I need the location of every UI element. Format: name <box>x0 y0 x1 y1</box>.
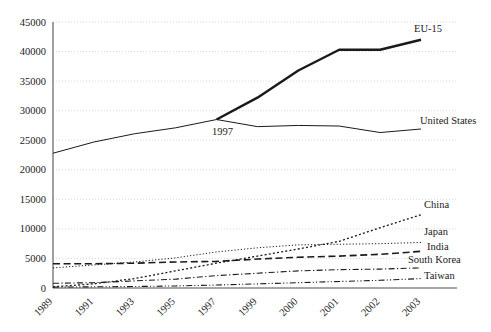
y-tick-label: 40000 <box>20 46 46 57</box>
series-label-south-korea: South Korea <box>408 254 461 265</box>
y-tick-label: 0 <box>41 283 46 294</box>
y-tick-labels-group: 0500010000150002000025000300003500040000… <box>20 17 46 294</box>
annotations-group: 1997 <box>212 126 233 137</box>
x-tick-label: 1999 <box>236 296 259 319</box>
chart-canvas: 0500010000150002000025000300003500040000… <box>0 0 491 332</box>
series-label-united-states: United States <box>420 115 476 126</box>
x-tick-label: 1997 <box>195 296 218 319</box>
series-label-taiwan: Taiwan <box>424 270 456 281</box>
x-tick-label: 2002 <box>359 296 382 319</box>
y-tick-label: 20000 <box>20 164 46 175</box>
x-tick-label: 2003 <box>400 296 423 319</box>
x-tick-label: 1995 <box>154 296 177 319</box>
y-tick-label: 5000 <box>25 253 46 264</box>
y-tick-label: 15000 <box>20 194 46 205</box>
y-tick-label: 35000 <box>20 76 46 87</box>
series-label-china: China <box>424 199 449 210</box>
y-tick-label: 10000 <box>20 223 46 234</box>
series-line-china <box>53 215 421 287</box>
x-tick-label: 1991 <box>73 296 96 319</box>
x-tick-label: 1993 <box>114 296 137 319</box>
series-label-eu-15: EU-15 <box>414 23 442 34</box>
axes-group <box>53 22 457 288</box>
series-line-eu-15 <box>217 40 421 120</box>
x-tick-labels-group: 1989199119931995199719992000200120022003 <box>32 296 423 319</box>
series-label-japan: Japan <box>424 226 449 237</box>
y-tick-label: 45000 <box>20 17 46 28</box>
x-tick-label: 2001 <box>318 296 341 319</box>
series-line-india <box>53 251 421 263</box>
y-tick-label: 30000 <box>20 105 46 116</box>
series-line-taiwan <box>53 279 421 288</box>
gridlines-group <box>53 22 457 288</box>
line-chart: 0500010000150002000025000300003500040000… <box>0 0 491 332</box>
x-tick-label: 1989 <box>32 296 55 319</box>
series-labels-group: EU-15United StatesChinaJapanIndiaSouth K… <box>408 23 476 281</box>
series-lines-group <box>53 40 421 287</box>
y-tick-label: 25000 <box>20 135 46 146</box>
x-tick-label: 2000 <box>277 296 300 319</box>
series-line-united-states <box>53 120 421 154</box>
annotation-label: 1997 <box>212 126 233 137</box>
series-label-india: India <box>427 241 449 252</box>
